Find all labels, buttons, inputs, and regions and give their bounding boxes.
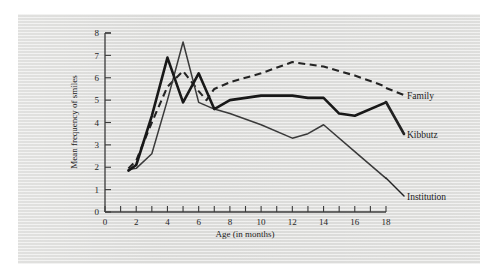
x-tick-label: 6 (196, 217, 201, 227)
leader-line-institution (386, 178, 404, 196)
y-tick-label: 7 (95, 51, 100, 61)
line-chart: 012345678 024681012141618 Family Kibbutz… (0, 0, 498, 278)
y-tick-label: 0 (95, 207, 100, 217)
y-tick-label: 8 (95, 28, 100, 38)
y-axis-ticks (105, 33, 111, 212)
x-tick-label: 10 (257, 217, 267, 227)
figure-container: 012345678 024681012141618 Family Kibbutz… (0, 0, 498, 278)
y-tick-label: 5 (95, 95, 100, 105)
x-tick-label: 14 (319, 217, 329, 227)
x-tick-label: 18 (382, 217, 392, 227)
x-tick-label: 12 (288, 217, 297, 227)
axes (105, 33, 386, 212)
series-label-kibbutz: Kibbutz (407, 130, 438, 140)
y-axis-title: Mean frequency of smiles (69, 75, 79, 169)
x-tick-label: 16 (350, 217, 360, 227)
x-tick-label: 2 (134, 217, 139, 227)
x-axis-tick-labels: 024681012141618 (103, 217, 391, 227)
x-tick-label: 0 (103, 217, 108, 227)
y-tick-label: 3 (95, 140, 100, 150)
y-tick-label: 2 (95, 162, 100, 172)
y-tick-label: 4 (95, 118, 100, 128)
leader-line-kibbutz (386, 102, 404, 134)
series-label-family: Family (407, 91, 434, 101)
x-tick-label: 8 (228, 217, 233, 227)
x-axis-ticks (105, 206, 386, 212)
x-axis-title: Age (in months) (216, 229, 275, 239)
y-tick-label: 1 (95, 185, 100, 195)
y-axis-tick-labels: 012345678 (95, 28, 100, 217)
series-label-institution: Institution (407, 192, 446, 202)
leader-line-family (386, 88, 404, 95)
x-tick-label: 4 (165, 217, 170, 227)
y-tick-label: 6 (95, 73, 100, 83)
